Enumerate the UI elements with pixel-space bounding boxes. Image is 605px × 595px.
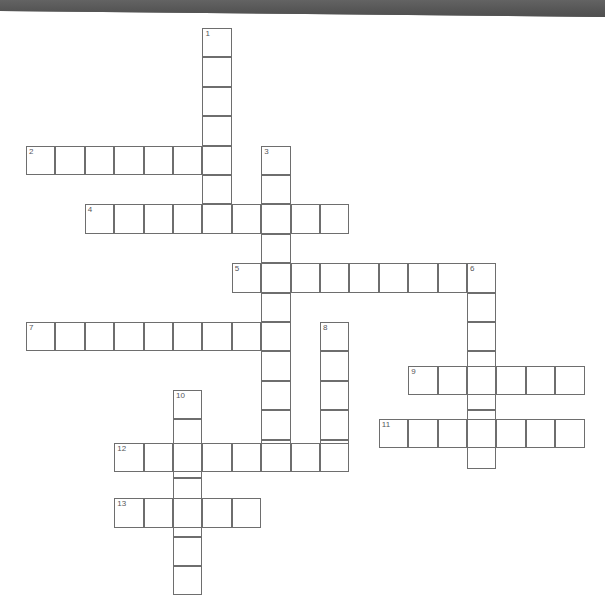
crossword-cell[interactable] bbox=[320, 351, 349, 380]
crossword-cell[interactable] bbox=[144, 146, 173, 175]
crossword-cell[interactable] bbox=[526, 419, 555, 448]
crossword-cell-start-6-down[interactable]: 6 bbox=[467, 263, 496, 292]
crossword-cell[interactable] bbox=[85, 146, 114, 175]
cell-number-7: 7 bbox=[29, 323, 33, 333]
crossword-cell[interactable] bbox=[320, 410, 349, 439]
crossword-cell-start-13-across[interactable]: 13 bbox=[114, 498, 143, 527]
crossword-cell[interactable] bbox=[467, 293, 496, 322]
crossword-cell[interactable] bbox=[379, 263, 408, 292]
crossword-cell[interactable] bbox=[555, 366, 584, 395]
crossword-cell[interactable] bbox=[173, 566, 202, 595]
crossword-cell[interactable] bbox=[261, 443, 290, 472]
crossword-cell[interactable] bbox=[55, 146, 84, 175]
crossword-cell[interactable] bbox=[202, 204, 231, 233]
crossword-cell[interactable] bbox=[144, 443, 173, 472]
crossword-cell[interactable] bbox=[114, 322, 143, 351]
crossword-cell[interactable] bbox=[173, 498, 202, 527]
crossword-cell[interactable] bbox=[291, 263, 320, 292]
crossword-cell[interactable] bbox=[85, 322, 114, 351]
crossword-cell[interactable] bbox=[496, 366, 525, 395]
crossword-cell[interactable] bbox=[261, 175, 290, 204]
crossword-cell-start-2-across[interactable]: 2 bbox=[26, 146, 55, 175]
crossword-cell[interactable] bbox=[320, 204, 349, 233]
cell-number-10: 10 bbox=[176, 391, 185, 401]
crossword-cell[interactable] bbox=[232, 498, 261, 527]
cell-number-9: 9 bbox=[411, 367, 415, 377]
crossword-cell[interactable] bbox=[114, 146, 143, 175]
crossword-cell[interactable] bbox=[438, 366, 467, 395]
crossword-cell[interactable] bbox=[261, 381, 290, 410]
crossword-cell[interactable] bbox=[232, 443, 261, 472]
crossword-cell[interactable] bbox=[438, 419, 467, 448]
crossword-cell-start-8-down[interactable]: 8 bbox=[320, 322, 349, 351]
crossword-cell[interactable] bbox=[114, 204, 143, 233]
cell-number-5: 5 bbox=[235, 264, 239, 274]
crossword-cell[interactable] bbox=[173, 443, 202, 472]
crossword-cell[interactable] bbox=[261, 293, 290, 322]
crossword-cell[interactable] bbox=[232, 322, 261, 351]
cell-number-11: 11 bbox=[382, 420, 390, 430]
cell-number-4: 4 bbox=[88, 205, 92, 215]
crossword-cell[interactable] bbox=[320, 263, 349, 292]
crossword-cell[interactable] bbox=[55, 322, 84, 351]
crossword-cell-start-11-across[interactable]: 11 bbox=[379, 419, 408, 448]
crossword-cell[interactable] bbox=[349, 263, 378, 292]
crossword-cell[interactable] bbox=[144, 204, 173, 233]
crossword-cell[interactable] bbox=[261, 410, 290, 439]
crossword-cell[interactable] bbox=[202, 175, 231, 204]
crossword-cell[interactable] bbox=[202, 146, 231, 175]
crossword-cell[interactable] bbox=[467, 366, 496, 395]
crossword-cell[interactable] bbox=[202, 57, 231, 86]
crossword-cell[interactable] bbox=[555, 419, 584, 448]
cell-number-13: 13 bbox=[117, 499, 126, 509]
crossword-cell-start-1-down[interactable]: 1 bbox=[202, 28, 231, 57]
crossword-cell-start-3-down[interactable]: 3 bbox=[261, 146, 290, 175]
crossword-cell[interactable] bbox=[261, 234, 290, 263]
crossword-cell[interactable] bbox=[261, 322, 290, 351]
crossword-cell-start-7-across[interactable]: 7 bbox=[26, 322, 55, 351]
crossword-cell[interactable] bbox=[202, 443, 231, 472]
crossword-cell[interactable] bbox=[144, 498, 173, 527]
crossword-cell[interactable] bbox=[320, 443, 349, 472]
top-banner bbox=[0, 0, 605, 18]
crossword-cell[interactable] bbox=[291, 443, 320, 472]
crossword-cell[interactable] bbox=[202, 116, 231, 145]
cell-number-6: 6 bbox=[470, 264, 474, 274]
crossword-cell[interactable] bbox=[261, 204, 290, 233]
crossword-cell[interactable] bbox=[261, 351, 290, 380]
crossword-cell[interactable] bbox=[144, 322, 173, 351]
crossword-cell[interactable] bbox=[408, 263, 437, 292]
crossword-cell[interactable] bbox=[496, 419, 525, 448]
crossword-cell[interactable] bbox=[467, 322, 496, 351]
crossword-cell[interactable] bbox=[232, 204, 261, 233]
crossword-cell-start-9-across[interactable]: 9 bbox=[408, 366, 437, 395]
crossword-cell[interactable] bbox=[202, 87, 231, 116]
crossword-cell[interactable] bbox=[261, 263, 290, 292]
crossword-cell[interactable] bbox=[408, 419, 437, 448]
crossword-cell[interactable] bbox=[467, 419, 496, 448]
cell-number-8: 8 bbox=[323, 323, 327, 333]
crossword-cell-start-4-across[interactable]: 4 bbox=[85, 204, 114, 233]
crossword-cell[interactable] bbox=[526, 366, 555, 395]
crossword-cell[interactable] bbox=[173, 322, 202, 351]
crossword-cell[interactable] bbox=[438, 263, 467, 292]
crossword-cell[interactable] bbox=[202, 498, 231, 527]
crossword-cell-start-10-down[interactable]: 10 bbox=[173, 390, 202, 419]
crossword-cell[interactable] bbox=[173, 204, 202, 233]
crossword-cell[interactable] bbox=[173, 537, 202, 566]
cell-number-2: 2 bbox=[29, 147, 33, 157]
cell-number-1: 1 bbox=[205, 29, 209, 39]
crossword-cell[interactable] bbox=[320, 381, 349, 410]
crossword-cell[interactable] bbox=[202, 322, 231, 351]
crossword-cell-start-12-across[interactable]: 12 bbox=[114, 443, 143, 472]
crossword-cell-start-5-across[interactable]: 5 bbox=[232, 263, 261, 292]
crossword-cell[interactable] bbox=[291, 204, 320, 233]
cell-number-3: 3 bbox=[264, 147, 268, 157]
crossword-cell[interactable] bbox=[173, 146, 202, 175]
cell-number-12: 12 bbox=[117, 444, 126, 454]
crossword-grid[interactable]: 12345678910111213 bbox=[0, 18, 605, 595]
banner-sheen bbox=[0, 0, 605, 18]
